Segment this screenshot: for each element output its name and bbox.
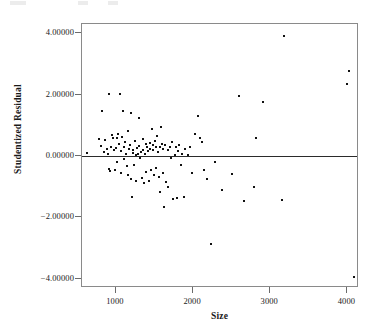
- data-point: [134, 140, 136, 142]
- data-point: [171, 141, 173, 143]
- data-point: [86, 152, 88, 154]
- data-point: [144, 153, 146, 155]
- clipped-text-artifact: [108, 1, 118, 5]
- data-point: [191, 172, 193, 174]
- data-point: [152, 149, 154, 151]
- data-point: [155, 167, 157, 169]
- data-point: [153, 174, 155, 176]
- data-point: [353, 276, 355, 278]
- x-axis-tick-label: 1000: [85, 296, 145, 306]
- data-point: [140, 151, 142, 153]
- data-point: [103, 151, 105, 153]
- data-point: [158, 176, 160, 178]
- y-axis-tick-label: 2.00000: [46, 89, 74, 99]
- data-point: [283, 35, 285, 37]
- data-point: [112, 137, 114, 139]
- data-point: [127, 174, 129, 176]
- data-point: [118, 143, 120, 145]
- x-axis-tick-label: 2000: [162, 296, 222, 306]
- data-point: [141, 177, 143, 179]
- data-point: [149, 142, 151, 144]
- data-point: [145, 171, 147, 173]
- data-point: [130, 112, 132, 114]
- data-point: [120, 172, 122, 174]
- data-point: [114, 169, 116, 171]
- data-point: [122, 110, 124, 112]
- data-point: [143, 182, 145, 184]
- data-point: [159, 146, 161, 148]
- data-point: [116, 137, 118, 139]
- y-axis-tick-label: 0.00000: [46, 150, 74, 160]
- data-point: [160, 126, 162, 128]
- zero-reference-line: [82, 156, 357, 157]
- data-point: [126, 165, 128, 167]
- data-point: [231, 173, 233, 175]
- data-point: [142, 138, 144, 140]
- data-point: [154, 140, 156, 142]
- clipped-text-artifact: [10, 1, 26, 5]
- data-point: [155, 146, 157, 148]
- data-point: [189, 146, 191, 148]
- data-point: [253, 186, 255, 188]
- data-point: [130, 178, 132, 180]
- data-point: [152, 144, 154, 146]
- data-point: [183, 196, 185, 198]
- data-point: [262, 101, 264, 103]
- data-point: [148, 180, 150, 182]
- data-point: [133, 164, 135, 166]
- data-point: [255, 137, 257, 139]
- data-point: [214, 161, 216, 163]
- data-point: [98, 138, 100, 140]
- data-point: [167, 186, 169, 188]
- x-axis-tick: [269, 287, 270, 293]
- data-point: [109, 170, 111, 172]
- data-point: [136, 147, 138, 149]
- data-point: [346, 83, 348, 85]
- data-point: [132, 152, 134, 154]
- clipped-text-artifact: [78, 1, 88, 5]
- data-point: [281, 199, 283, 201]
- data-point: [138, 145, 140, 147]
- data-point: [147, 150, 149, 152]
- data-point: [159, 191, 161, 193]
- data-point: [123, 158, 125, 160]
- data-point: [162, 148, 164, 150]
- y-axis-tick-label: 4.00000: [46, 27, 74, 37]
- data-point: [150, 169, 152, 171]
- data-point: [123, 146, 125, 148]
- x-axis-tick: [192, 287, 193, 293]
- data-point: [238, 95, 240, 97]
- data-point: [116, 161, 118, 163]
- data-point: [199, 137, 201, 139]
- data-point: [169, 146, 171, 148]
- data-point: [167, 149, 169, 151]
- data-point: [127, 130, 129, 132]
- data-point: [121, 136, 123, 138]
- plot-area: [82, 24, 357, 286]
- data-point: [180, 164, 182, 166]
- data-point: [106, 148, 108, 150]
- data-point: [128, 148, 130, 150]
- data-point: [100, 145, 102, 147]
- data-point: [129, 144, 131, 146]
- data-point: [108, 93, 110, 95]
- data-point: [146, 146, 148, 148]
- data-point: [163, 206, 165, 208]
- scatter-plot-figure: Studentized Residual 4.000002.000000.000…: [0, 0, 373, 330]
- y-axis-title: Studentized Residual: [13, 64, 23, 194]
- data-point: [117, 133, 119, 135]
- data-point: [184, 148, 186, 150]
- x-axis-tick: [346, 287, 347, 293]
- data-point: [201, 141, 203, 143]
- data-point: [210, 243, 212, 245]
- data-point: [221, 189, 223, 191]
- plot-frame: [81, 23, 358, 287]
- data-point: [243, 200, 245, 202]
- data-point: [176, 197, 178, 199]
- data-point: [132, 149, 134, 151]
- data-point: [131, 196, 133, 198]
- data-point: [120, 150, 122, 152]
- data-point: [206, 178, 208, 180]
- data-point: [113, 149, 115, 151]
- data-point: [161, 143, 163, 145]
